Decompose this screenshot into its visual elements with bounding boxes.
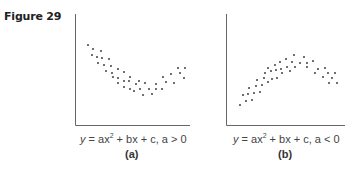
data-point (184, 67, 186, 69)
data-point (135, 83, 137, 85)
data-point (280, 68, 282, 70)
data-point (117, 77, 119, 79)
data-point (264, 72, 266, 74)
data-point (294, 66, 296, 68)
data-point (100, 50, 102, 52)
data-point (303, 56, 305, 58)
data-point (117, 68, 119, 70)
data-point (314, 72, 316, 74)
data-point (324, 67, 326, 69)
plot-b-axes (227, 14, 346, 126)
plot-a-axes (76, 14, 191, 126)
data-point (306, 62, 308, 64)
data-point (105, 70, 107, 72)
data-point (173, 82, 175, 84)
data-point (267, 67, 269, 69)
data-point (271, 78, 273, 80)
data-point (242, 94, 244, 96)
data-point (112, 76, 114, 78)
data-point (255, 85, 257, 87)
plot-b-equation: y = ax2 + bx + c, a < 0 (233, 132, 340, 145)
data-point (285, 58, 287, 60)
data-point (148, 88, 150, 90)
data-point (291, 61, 293, 63)
plot-b-label: (b) (278, 148, 292, 160)
data-point (245, 100, 247, 102)
data-point (128, 80, 130, 82)
data-point (336, 82, 338, 84)
data-point (253, 92, 255, 94)
data-point (96, 56, 98, 58)
data-point (110, 65, 112, 67)
data-point (179, 72, 181, 74)
data-point (279, 61, 281, 63)
data-point (155, 83, 157, 85)
data-point (91, 54, 93, 56)
data-point (155, 88, 157, 90)
data-point (101, 57, 103, 59)
data-point (138, 80, 140, 82)
data-point (259, 91, 261, 93)
data-point (331, 77, 333, 79)
plot-a-equation: y = ax2 + bx + c, a > 0 (80, 132, 187, 145)
data-point (239, 104, 241, 106)
data-point (133, 90, 135, 92)
data-point (123, 71, 125, 73)
data-point (162, 76, 164, 78)
data-point (144, 82, 146, 84)
data-point (87, 44, 89, 46)
data-point (261, 84, 263, 86)
data-point (108, 58, 110, 60)
data-point (322, 76, 324, 78)
data-point (270, 70, 272, 72)
data-point (177, 67, 179, 69)
data-point (161, 88, 163, 90)
data-point (299, 62, 301, 64)
plot-a-points (87, 44, 186, 96)
plot-a (76, 14, 191, 126)
plot-b-points (239, 54, 338, 106)
data-point (111, 72, 113, 74)
data-point (312, 60, 314, 62)
data-point (151, 93, 153, 95)
data-point (139, 88, 141, 90)
data-point (247, 93, 249, 95)
data-point (281, 72, 283, 74)
scatter-plots (0, 0, 359, 172)
plot-a-label: (a) (125, 148, 138, 160)
data-point (92, 48, 94, 50)
data-point (274, 64, 276, 66)
data-point (248, 87, 250, 89)
data-point (286, 66, 288, 68)
data-point (263, 77, 265, 79)
data-point (267, 81, 269, 83)
data-point (97, 62, 99, 64)
plot-b (227, 14, 346, 126)
data-point (327, 72, 329, 74)
data-point (251, 99, 253, 101)
data-point (328, 82, 330, 84)
data-point (183, 77, 185, 79)
data-point (334, 72, 336, 74)
data-point (293, 54, 295, 56)
data-point (276, 77, 278, 79)
data-point (142, 94, 144, 96)
data-point (170, 73, 172, 75)
data-point (129, 88, 131, 90)
data-point (103, 64, 105, 66)
data-point (117, 82, 119, 84)
data-point (256, 79, 258, 81)
data-point (306, 66, 308, 68)
data-point (275, 69, 277, 71)
data-point (129, 76, 131, 78)
data-point (317, 68, 319, 70)
data-point (165, 81, 167, 83)
data-point (289, 70, 291, 72)
data-point (123, 86, 125, 88)
data-point (123, 80, 125, 82)
